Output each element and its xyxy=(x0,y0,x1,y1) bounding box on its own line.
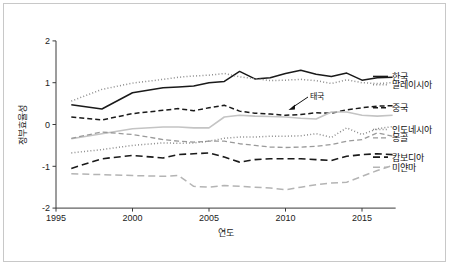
annotation-arrow-head xyxy=(289,105,296,110)
x-tick-label: 2010 xyxy=(275,213,295,223)
x-tick-label: 1995 xyxy=(46,213,66,223)
x-tick-label: 2000 xyxy=(122,213,142,223)
series-line-0 xyxy=(71,70,392,109)
y-axis-title: 정부효율성 xyxy=(18,105,28,145)
x-axis-title: 연도 xyxy=(218,228,234,238)
x-tick-label: 2015 xyxy=(352,213,372,223)
annotation-label-thailand: 태국 xyxy=(310,92,324,101)
series-line-1 xyxy=(71,74,392,102)
government-effectiveness-line-chart: 210-1-219952000200520102015연도정부효율성 태국 한국… xyxy=(0,0,451,267)
series-line-5 xyxy=(71,132,392,147)
series-label-말레이시아: 말레이시아 xyxy=(392,79,433,90)
data-series-group xyxy=(71,70,392,190)
series-label-몽골: 몽골 xyxy=(392,133,408,143)
y-tick-label: 0 xyxy=(45,120,50,130)
series-line-7 xyxy=(71,165,392,189)
y-tick-label: -1 xyxy=(42,162,50,172)
series-label-캄보디아: 캄보디아 xyxy=(392,152,425,163)
y-tick-label: -2 xyxy=(42,203,50,213)
series-label-중국: 중국 xyxy=(392,103,408,113)
series-line-6 xyxy=(71,153,392,168)
series-label-group: 한국말레이시아중국인도네시아몽골캄보디아미얀마 xyxy=(373,72,433,173)
y-tick-label: 2 xyxy=(45,36,50,46)
x-tick-label: 2005 xyxy=(199,213,219,223)
series-label-미얀마: 미얀마 xyxy=(392,162,417,173)
y-tick-label: 1 xyxy=(45,78,50,88)
thailand-annotation: 태국 xyxy=(289,92,325,110)
screenshot-root: 210-1-219952000200520102015연도정부효율성 태국 한국… xyxy=(0,0,451,267)
